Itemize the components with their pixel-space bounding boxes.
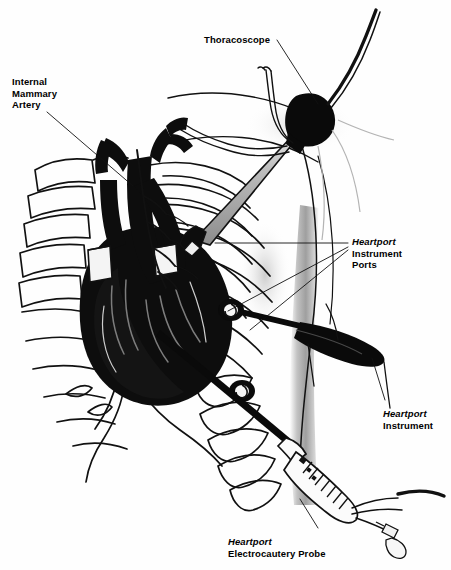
label-probe-brand: Heartport (228, 536, 326, 548)
label-ima-line3: Artery (12, 99, 57, 111)
label-electrocautery-probe: Heartport Electrocautery Probe (228, 536, 326, 559)
label-instrument-line2: Instrument (383, 420, 433, 432)
label-thoracoscope-text: Thoracoscope (204, 34, 270, 45)
label-thoracoscope: Thoracoscope (204, 34, 270, 46)
medical-illustration-canvas (0, 0, 451, 570)
label-ports-line2: Instrument (352, 248, 402, 260)
label-probe-line2: Electrocautery Probe (228, 548, 326, 560)
label-heartport-instrument: Heartport Instrument (383, 408, 433, 431)
label-ima-line2: Mammary (12, 88, 57, 100)
label-ports-line3: Ports (352, 259, 402, 271)
label-ima-line1: Internal (12, 76, 57, 88)
label-ports-brand: Heartport (352, 236, 402, 248)
illustration-figure: Thoracoscope Internal Mammary Artery Hea… (0, 0, 451, 570)
upper-instrument-port (218, 299, 244, 321)
label-instrument-brand: Heartport (383, 408, 433, 420)
label-internal-mammary-artery: Internal Mammary Artery (12, 76, 57, 111)
label-instrument-ports: Heartport Instrument Ports (352, 236, 402, 271)
